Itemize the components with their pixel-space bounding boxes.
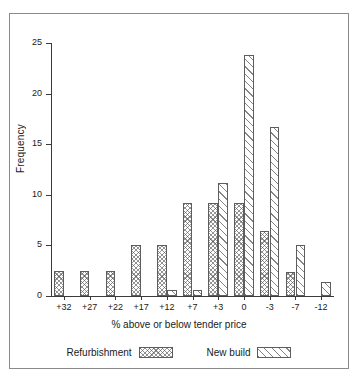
- bar-new-build-plus3: [218, 183, 228, 296]
- bar-new-build-plus12: [167, 290, 177, 296]
- x-axis-tick-label: -3: [266, 302, 274, 313]
- x-axis-tick-label: +27: [82, 302, 97, 313]
- y-axis-tick: 5: [46, 245, 52, 246]
- x-axis-tick: [141, 296, 142, 300]
- bar-refurbishment-plus3: [208, 203, 218, 296]
- y-axis-tick-label: 20: [32, 87, 42, 99]
- bar-refurbishment-plus27: [80, 271, 90, 296]
- bar-refurbishment-minus7: [286, 272, 296, 296]
- bar-new-build-minus3: [270, 127, 280, 296]
- chart-legend: RefurbishmentNew build: [10, 347, 348, 358]
- bar-refurbishment-minus3: [260, 231, 270, 296]
- x-axis-tick: [64, 296, 65, 300]
- x-axis-tick: [270, 296, 271, 300]
- bar-refurbishment-plus7: [183, 203, 193, 296]
- y-axis-tick-label: 10: [32, 188, 42, 200]
- chart-figure: Frequency 0510152025 +32+27+22+17+12+7+3…: [9, 13, 349, 369]
- x-axis-tick: [218, 296, 219, 300]
- y-axis-tick: 25: [46, 43, 52, 44]
- y-axis-line: [51, 43, 52, 296]
- x-axis-tick: [295, 296, 296, 300]
- plot-area: 0510152025 +32+27+22+17+12+7+30-3-7-12: [51, 43, 334, 296]
- bar-refurbishment-plus22: [106, 271, 116, 296]
- x-axis-tick: [115, 296, 116, 300]
- y-axis-tick-label: 0: [37, 289, 42, 301]
- y-axis-tick-label: 15: [32, 137, 42, 149]
- x-axis-tick: [244, 296, 245, 300]
- x-axis-tick-label: +17: [133, 302, 148, 313]
- legend-label: Refurbishment: [67, 347, 132, 358]
- x-axis-title: % above or below tender price: [10, 319, 348, 330]
- y-axis-tick-label: 5: [37, 238, 42, 250]
- x-axis-tick: [321, 296, 322, 300]
- cross-hatch-swatch: [139, 347, 173, 358]
- y-axis-tick: 0: [46, 296, 52, 297]
- y-axis-tick-label: 25: [32, 36, 42, 48]
- x-axis-tick-label: -7: [291, 302, 299, 313]
- x-axis-tick-label: +12: [159, 302, 174, 313]
- x-axis-tick-label: +3: [213, 302, 223, 313]
- x-axis-tick-label: -12: [315, 302, 328, 313]
- bar-refurbishment-plus32: [54, 271, 64, 296]
- y-axis-tick: 15: [46, 144, 52, 145]
- legend-item-new-build: New build: [207, 347, 292, 358]
- x-axis-tick: [167, 296, 168, 300]
- x-axis-tick-label: 0: [241, 302, 246, 313]
- x-axis-tick: [193, 296, 194, 300]
- x-axis-tick: [90, 296, 91, 300]
- y-axis-tick: 10: [46, 195, 52, 196]
- x-axis-tick-label: +22: [108, 302, 123, 313]
- diagonal-hatch-swatch: [257, 347, 291, 358]
- bar-refurbishment-plus17: [131, 245, 141, 296]
- bar-new-build-minus12: [321, 282, 331, 296]
- bar-new-build-0: [244, 55, 254, 296]
- y-axis-tick: 20: [46, 94, 52, 95]
- bar-new-build-minus7: [296, 245, 306, 296]
- legend-label: New build: [207, 347, 251, 358]
- legend-item-refurbishment: Refurbishment: [67, 347, 173, 358]
- y-axis-title: Frequency: [15, 124, 26, 173]
- bar-refurbishment-plus12: [157, 245, 167, 296]
- bar-new-build-plus7: [193, 290, 203, 296]
- bar-refurbishment-0: [234, 203, 244, 296]
- x-axis-tick-label: +32: [56, 302, 71, 313]
- x-axis-tick-label: +7: [187, 302, 197, 313]
